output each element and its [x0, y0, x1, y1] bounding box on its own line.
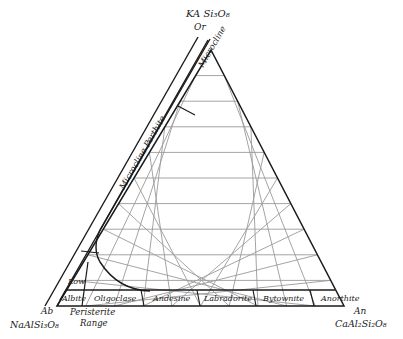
grid-line	[224, 76, 315, 306]
ternary-diagram: KA Si₃O₈ Or Microcline Microcline Perthi…	[0, 0, 403, 339]
peristerite-label: Peristerite	[69, 307, 115, 317]
band-divider-andesine	[197, 290, 200, 306]
oligoclase-label: Oligoclase	[94, 294, 137, 303]
left-vertex-abbr: Ab	[40, 306, 53, 316]
orthoclase-boundary-line	[45, 37, 198, 306]
band-divider-bytownite	[310, 290, 314, 306]
microcline-divider	[178, 106, 195, 115]
band-divider-oligoclase	[141, 290, 144, 306]
anorthite-label: Anorthite	[320, 294, 360, 303]
andesine-label: Andesine	[152, 294, 191, 303]
labradorite-label: Labradorite	[203, 294, 252, 303]
albite-label: Albite	[61, 294, 86, 303]
range-label: Range	[79, 318, 108, 328]
grid-line	[251, 127, 258, 306]
right-vertex-formula: CaAl₂Si₂O₈	[335, 318, 387, 329]
bytownite-label: Bytownite	[262, 294, 304, 303]
left-vertex-formula: NaAlSi₃O₈	[9, 319, 59, 330]
apex-abbr: Or	[194, 22, 206, 32]
grid-line	[134, 178, 201, 306]
low-label: Low	[67, 277, 85, 286]
microcline-perthite-label: Microcline Perthite	[117, 114, 168, 192]
apex-formula: KA Si₃O₈	[185, 8, 230, 19]
right-vertex-abbr: An	[353, 306, 366, 316]
